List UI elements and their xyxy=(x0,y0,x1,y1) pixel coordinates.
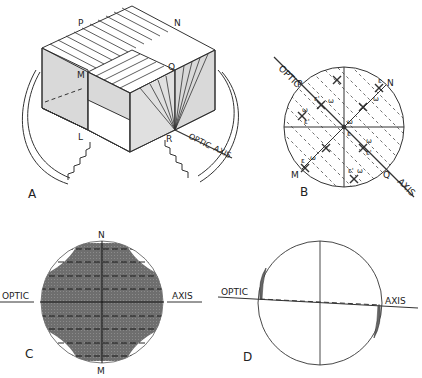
epsilon-symbol: ε xyxy=(378,77,382,85)
axis-label-c: AXIS xyxy=(172,291,193,301)
point-n: N xyxy=(174,18,181,28)
epsilon-symbol: ε xyxy=(347,130,351,138)
epsilon-prime-symbol: ε' xyxy=(314,95,320,103)
omega-symbol: ω xyxy=(347,118,353,126)
axis-label-b: AXIS xyxy=(396,176,418,198)
axis-label: AXIS xyxy=(212,144,232,160)
panel-a-block-diagram xyxy=(22,6,238,184)
crystal-optics-figure: P N M Q L R OPTIC AXIS A xyxy=(0,0,422,378)
epsilon-symbol: ε xyxy=(301,157,305,165)
point-p-b: P xyxy=(297,79,303,89)
panel-b-stereogram xyxy=(270,0,420,270)
omega-symbol: ω xyxy=(328,97,334,105)
panel-label-c: C xyxy=(25,347,33,361)
point-q: Q xyxy=(168,62,175,72)
omega-symbol: ω xyxy=(366,137,372,145)
epsilon-prime-symbol: ε' xyxy=(366,149,372,157)
optic-label-d: OPTIC xyxy=(221,287,248,297)
panel-c-stereogram xyxy=(0,241,202,363)
omega-symbol: ω xyxy=(310,154,316,162)
panel-label-a: A xyxy=(28,187,37,201)
omega-symbol: ω xyxy=(302,106,308,114)
optic-label-c: OPTIC xyxy=(2,291,29,301)
point-l: L xyxy=(78,132,83,142)
point-n-b: N xyxy=(387,78,394,88)
panel-label-b: B xyxy=(300,185,308,199)
point-n-c: N xyxy=(98,230,105,240)
epsilon-prime-symbol: ε' xyxy=(304,118,310,126)
point-r: R xyxy=(166,134,172,144)
point-m-c: M xyxy=(97,366,105,376)
optic-label: OPTIC xyxy=(187,132,213,151)
omega-symbol: ω xyxy=(357,167,363,175)
point-m: M xyxy=(77,70,85,80)
point-q-b: Q xyxy=(383,170,390,180)
axis-label-d: AXIS xyxy=(385,296,406,306)
point-m-b: M xyxy=(291,170,299,180)
epsilon-prime-symbol: ε' xyxy=(348,167,354,175)
omega-symbol: ω xyxy=(373,95,379,103)
panel-label-d: D xyxy=(243,350,252,364)
point-p: P xyxy=(78,18,84,28)
